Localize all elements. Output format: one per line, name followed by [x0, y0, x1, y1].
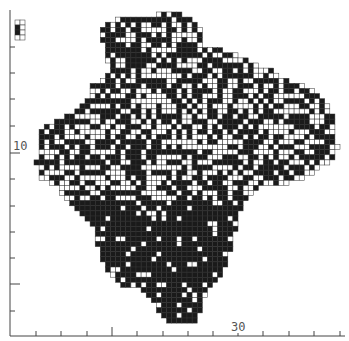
grid-cells: [34, 12, 340, 323]
y-axis-label-10: 10: [12, 140, 28, 152]
distribution-map: [0, 0, 349, 341]
island-inset: [15, 20, 25, 40]
x-axis-label-30: 30: [230, 321, 246, 333]
